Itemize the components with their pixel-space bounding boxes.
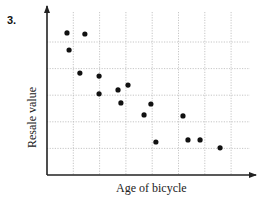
data-point xyxy=(118,100,123,105)
data-points xyxy=(64,30,222,150)
data-point xyxy=(197,137,202,142)
data-point xyxy=(82,31,87,36)
data-point xyxy=(96,73,101,78)
data-point xyxy=(180,113,185,118)
data-point xyxy=(66,47,71,52)
data-point xyxy=(125,82,130,87)
data-point xyxy=(64,30,69,35)
data-point xyxy=(185,137,190,142)
axes xyxy=(47,6,256,175)
data-point xyxy=(96,91,101,96)
y-axis-label: Resale value xyxy=(25,87,39,148)
data-point xyxy=(217,145,222,150)
grid-lines xyxy=(47,12,250,175)
data-point xyxy=(77,71,82,76)
data-point xyxy=(141,112,146,117)
data-point xyxy=(148,101,153,106)
x-axis-label: Age of bicycle xyxy=(116,181,187,195)
data-point xyxy=(153,139,158,144)
scatter-chart: Age of bicycle Resale value xyxy=(0,0,269,207)
data-point xyxy=(115,87,120,92)
